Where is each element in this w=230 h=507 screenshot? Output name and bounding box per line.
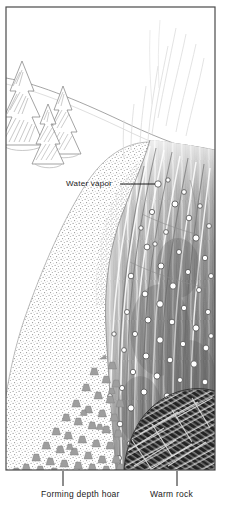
water-vapor-label: Water vapor (66, 179, 112, 188)
figure-panel: Water vapor Forming depth hoar Warm rock (0, 0, 230, 507)
caption-leaders (63, 471, 177, 486)
snowpack-illustration (0, 0, 230, 507)
warm-rock-label: Warm rock (150, 489, 193, 499)
forming-depth-hoar-label: Forming depth hoar (41, 489, 120, 499)
